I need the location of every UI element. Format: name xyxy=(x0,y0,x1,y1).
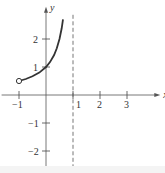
y-axis-label: y xyxy=(49,2,55,13)
x-tick-label: 3 xyxy=(124,99,129,110)
y-tick-label: 1 xyxy=(33,62,38,73)
footer-strip xyxy=(0,166,165,173)
chart: x y −1123−2−112 xyxy=(0,0,165,173)
y-tick-label: −2 xyxy=(28,146,39,157)
y-tick-label: 2 xyxy=(33,34,38,45)
y-tick-label: −1 xyxy=(28,118,39,129)
function-curve xyxy=(19,19,63,81)
open-circle-point xyxy=(16,78,21,83)
x-tick-label: −1 xyxy=(12,99,23,110)
y-axis-arrow-icon xyxy=(44,7,48,13)
x-tick-label: 2 xyxy=(97,99,102,110)
x-tick-label: 1 xyxy=(76,99,81,110)
x-axis-arrow-icon xyxy=(154,93,160,97)
x-axis-label: x xyxy=(162,89,165,100)
